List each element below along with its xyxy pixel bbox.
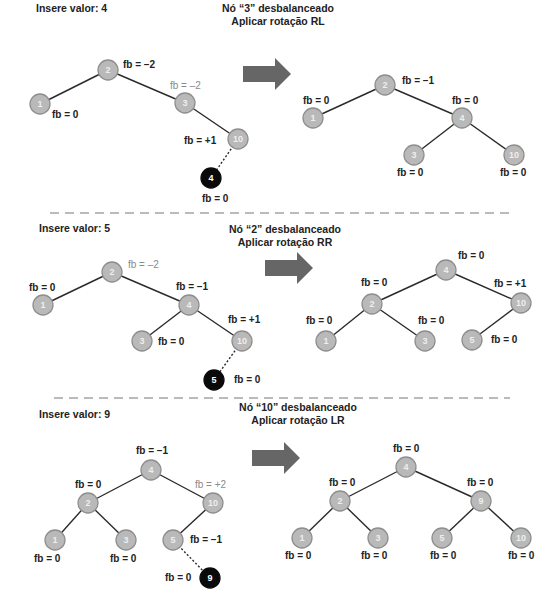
- tree-before: 42101359fb = –1fb = 0fb = +2fb = –1fb = …: [34, 445, 227, 588]
- tree-node: 2: [98, 60, 118, 80]
- tree-node: 3: [132, 331, 152, 351]
- node-value: 9: [478, 496, 483, 506]
- node-value: 3: [139, 336, 144, 346]
- balance-factor-label: fb = –1: [190, 534, 222, 545]
- panel-title: Insere valor: 4: [36, 2, 107, 14]
- inserted-node: 5: [204, 370, 224, 390]
- balance-factor-label: fb = 0: [418, 315, 445, 326]
- node-value: 5: [439, 533, 444, 543]
- balance-factor-label: fb = 0: [430, 550, 457, 561]
- tree-node: 4: [436, 260, 456, 280]
- tree-node: 5: [163, 530, 183, 550]
- balance-factor-label: fb = 0: [52, 109, 79, 120]
- inserted-node: 4: [201, 168, 221, 188]
- balance-factor-label: fb = 0: [158, 336, 185, 347]
- balance-factor-label: fb = 0: [397, 167, 424, 178]
- node-value: 2: [382, 80, 387, 90]
- tree-edge: [385, 85, 462, 118]
- arrow-right-icon: [265, 252, 313, 284]
- balance-factor-label: fb = 0: [303, 95, 330, 106]
- tree-after: 214310fb = –1fb = 0fb = 0fb = 0fb = 0: [303, 75, 527, 178]
- panel-title: Insere valor: 9: [39, 408, 110, 420]
- tree-before: 213104fb = –2fb = –2fb = 0fb = +1fb = 0: [30, 59, 248, 204]
- node-value: 3: [182, 98, 187, 108]
- balance-factor-label: fb = 0: [75, 479, 102, 490]
- node-value: 2: [369, 299, 374, 309]
- tree-before: 2143105fb = –2fb = 0fb = –1fb = +1fb = 0…: [29, 259, 261, 390]
- unbalanced-node-heading: Nó “10” desbalanceado: [239, 401, 357, 413]
- node-value: 5: [469, 335, 474, 345]
- tree-node: 1: [316, 331, 336, 351]
- balance-factor-label: fb = –2: [123, 59, 155, 70]
- tree-node: 3: [175, 93, 195, 113]
- node-value: 3: [422, 336, 427, 346]
- balance-factor-label: fb = 0: [361, 550, 388, 561]
- balance-factor-label: fb = +1: [184, 135, 217, 146]
- node-value: 3: [375, 533, 380, 543]
- tree-after: 4210135fb = 0fb = 0fb = +1fb = 0fb = 0fb…: [306, 250, 531, 351]
- node-value: 2: [337, 496, 342, 506]
- tree-node: 10: [511, 293, 531, 313]
- node-value: 2: [105, 65, 110, 75]
- node-value: 1: [40, 300, 45, 310]
- balance-factor-label: fb = –1: [176, 281, 208, 292]
- node-value: 2: [109, 267, 114, 277]
- tree-node: 1: [33, 295, 53, 315]
- tree-node: 3: [368, 528, 388, 548]
- insertion-panel: Insere valor: 5Nó “2” desbalanceadoAplic…: [29, 222, 531, 390]
- node-value: 3: [411, 150, 416, 160]
- balance-factor-label: fb = 0: [458, 250, 485, 261]
- balance-factor-label: fb = –2: [170, 80, 201, 91]
- tree-after: 42913510fb = 0fb = 0fb = 0fb = 0fb = 0fb…: [285, 443, 535, 561]
- tree-node: 10: [203, 493, 223, 513]
- tree-node: 1: [303, 108, 323, 128]
- node-value: 4: [459, 113, 464, 123]
- balance-factor-label: fb = –1: [402, 75, 434, 86]
- balance-factor-label: fb = 0: [285, 550, 312, 561]
- balance-factor-label: fb = 0: [306, 315, 333, 326]
- tree-node: 1: [45, 530, 65, 550]
- node-value: 5: [211, 375, 216, 385]
- tree-node: 4: [179, 295, 199, 315]
- node-value: 9: [207, 573, 212, 583]
- node-value: 10: [516, 533, 526, 543]
- tree-node: 2: [102, 262, 122, 282]
- node-value: 4: [186, 300, 191, 310]
- balance-factor-label: fb = 0: [467, 477, 494, 488]
- node-value: 10: [516, 298, 526, 308]
- avl-rotation-diagram: Insere valor: 4Nó “3” desbalanceadoAplic…: [0, 0, 541, 603]
- tree-node: 3: [404, 145, 424, 165]
- node-value: 5: [170, 535, 175, 545]
- tree-node: 2: [362, 294, 382, 314]
- insertion-panel: Insere valor: 9Nó “10” desbalanceadoApli…: [34, 401, 535, 588]
- tree-node: 4: [396, 457, 416, 477]
- node-value: 10: [509, 150, 519, 160]
- balance-factor-label: fb = +2: [195, 479, 227, 490]
- node-value: 1: [37, 99, 42, 109]
- balance-factor-label: fb = 0: [491, 334, 518, 345]
- tree-edge: [40, 70, 108, 104]
- insertion-panel: Insere valor: 4Nó “3” desbalanceadoAplic…: [30, 2, 527, 204]
- tree-node: 1: [292, 528, 312, 548]
- balance-factor-label: fb = 0: [34, 553, 61, 564]
- balance-factor-label: fb = 0: [234, 374, 261, 385]
- balance-factor-label: fb = –1: [136, 445, 168, 456]
- tree-node: 4: [141, 460, 161, 480]
- unbalanced-node-heading: Nó “2” desbalanceado: [229, 223, 341, 235]
- tree-node: 3: [116, 530, 136, 550]
- balance-factor-label: fb = 0: [508, 550, 535, 561]
- balance-factor-label: fb = 0: [110, 553, 137, 564]
- tree-node: 10: [511, 528, 531, 548]
- node-value: 4: [443, 265, 448, 275]
- balance-factor-label: fb = 0: [165, 572, 192, 583]
- node-value: 4: [208, 173, 213, 183]
- tree-node: 2: [78, 493, 98, 513]
- node-value: 3: [123, 535, 128, 545]
- balance-factor-label: fb = –2: [128, 259, 159, 270]
- arrow-right-icon: [243, 58, 291, 90]
- unbalanced-node-heading: Nó “3” desbalanceado: [222, 2, 334, 14]
- balance-factor-label: fb = +1: [494, 278, 527, 289]
- node-value: 10: [237, 336, 247, 346]
- balance-factor-label: fb = 0: [329, 477, 356, 488]
- balance-factor-label: fb = +1: [228, 314, 261, 325]
